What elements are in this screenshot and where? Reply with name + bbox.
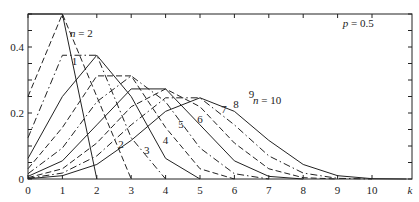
y-tick-label: 0 bbox=[19, 173, 25, 185]
curve-label: 4 bbox=[163, 134, 169, 146]
curve-label: 5 bbox=[178, 118, 184, 130]
x-tick-label: 4 bbox=[163, 184, 169, 196]
parameter-annotation: p = 0.5 bbox=[342, 17, 374, 29]
curve-label: 2 bbox=[118, 138, 124, 150]
curve-label: 1 bbox=[72, 55, 78, 67]
y-tick-label: 0.4 bbox=[10, 41, 24, 53]
series-line-n9 bbox=[28, 98, 372, 179]
x-tick-label: 5 bbox=[197, 184, 203, 196]
chart-container: 012345678910k00.20.4p = 0.5n = 212345678… bbox=[0, 0, 419, 202]
curve-label: n = 10 bbox=[253, 94, 282, 106]
x-tick-label: 3 bbox=[128, 184, 134, 196]
x-tick-label: 1 bbox=[60, 184, 66, 196]
curve-label: n = 2 bbox=[70, 27, 93, 39]
x-tick-label: 10 bbox=[367, 184, 379, 196]
x-tick-label: 2 bbox=[94, 184, 100, 196]
x-axis-label: k bbox=[408, 184, 414, 196]
curve-label: 3 bbox=[144, 144, 150, 156]
curve-label: 7 bbox=[221, 103, 227, 115]
curve-label: 6 bbox=[197, 113, 203, 125]
series-line-n3 bbox=[28, 55, 166, 179]
binomial-chart: 012345678910k00.20.4p = 0.5n = 212345678… bbox=[0, 0, 419, 202]
x-tick-label: 9 bbox=[335, 184, 341, 196]
x-tick-label: 6 bbox=[232, 184, 238, 196]
x-tick-label: 7 bbox=[266, 184, 272, 196]
x-tick-label: 0 bbox=[25, 184, 31, 196]
series-line-n8 bbox=[28, 89, 338, 179]
series-line-n5 bbox=[28, 76, 234, 179]
y-tick-label: 0.2 bbox=[10, 107, 24, 119]
curve-label: 8 bbox=[233, 98, 239, 110]
series-line-n10 bbox=[28, 98, 406, 179]
x-tick-label: 8 bbox=[300, 184, 306, 196]
series-line-n4 bbox=[28, 55, 200, 179]
